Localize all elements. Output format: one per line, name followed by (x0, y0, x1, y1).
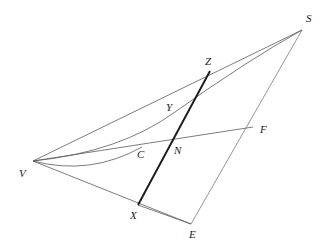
segment-X-E (138, 205, 191, 224)
point-label-S: S (306, 13, 312, 24)
point-label-N: N (174, 145, 181, 156)
point-label-F: F (260, 124, 267, 135)
segment-V-S (33, 30, 302, 161)
point-label-V: V (19, 168, 26, 179)
point-label-X: X (130, 210, 137, 221)
geometry-diagram: S Z Y F N C V X E (0, 0, 328, 251)
segment-V-E (33, 161, 191, 224)
point-label-E: E (189, 229, 196, 240)
geometry-canvas (0, 0, 328, 251)
segment-X-Z (138, 71, 210, 205)
point-label-Z: Z (205, 56, 211, 67)
point-label-C: C (137, 149, 144, 160)
point-label-Y: Y (166, 102, 172, 113)
curve-V-arc-lower (33, 147, 142, 166)
